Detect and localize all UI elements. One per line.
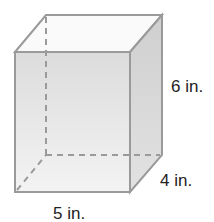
width-label: 5 in. [53, 204, 85, 222]
height-label: 6 in. [171, 77, 203, 97]
depth-label: 4 in. [160, 171, 192, 191]
